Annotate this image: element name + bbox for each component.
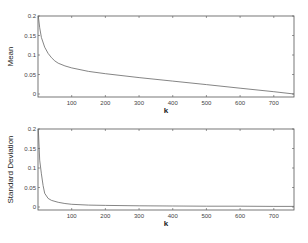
y-axis-label: Standard Deviation — [6, 135, 15, 203]
x-tick-label: 500 — [201, 100, 212, 106]
x-axis-label: k — [164, 219, 169, 228]
y-tick-label: 0.2 — [28, 13, 37, 19]
data-line — [38, 129, 294, 206]
y-tick-label: 0.15 — [24, 146, 36, 152]
y-tick-label: 0.1 — [28, 52, 37, 58]
x-tick-label: 400 — [168, 213, 179, 219]
chart-figure: 10020030040050060070000.050.10.150.2kMea… — [0, 0, 308, 243]
x-tick-label: 200 — [100, 100, 111, 106]
y-tick-label: 0.1 — [28, 165, 37, 171]
y-tick-label: 0 — [33, 204, 37, 210]
mean-plot: 10020030040050060070000.050.10.150.2kMea… — [6, 13, 294, 115]
y-tick-label: 0.15 — [24, 33, 36, 39]
x-tick-label: 100 — [67, 100, 78, 106]
y-tick-label: 0 — [33, 91, 37, 97]
axes-box — [38, 16, 294, 97]
x-tick-label: 700 — [269, 213, 280, 219]
x-tick-label: 100 — [67, 213, 78, 219]
x-tick-label: 300 — [134, 213, 145, 219]
x-axis-label: k — [164, 106, 169, 115]
x-tick-label: 600 — [235, 100, 246, 106]
x-tick-label: 600 — [235, 213, 246, 219]
std-plot: 10020030040050060070000.050.10.150.2kSta… — [6, 126, 294, 228]
data-line — [38, 16, 294, 94]
x-tick-label: 500 — [201, 213, 212, 219]
y-axis-label: Mean — [6, 46, 15, 66]
x-tick-label: 400 — [168, 100, 179, 106]
x-tick-label: 300 — [134, 100, 145, 106]
y-tick-label: 0.05 — [24, 72, 36, 78]
y-tick-label: 0.2 — [28, 126, 37, 132]
x-tick-label: 700 — [269, 100, 280, 106]
y-tick-label: 0.05 — [24, 185, 36, 191]
x-tick-label: 200 — [100, 213, 111, 219]
axes-box — [38, 129, 294, 210]
